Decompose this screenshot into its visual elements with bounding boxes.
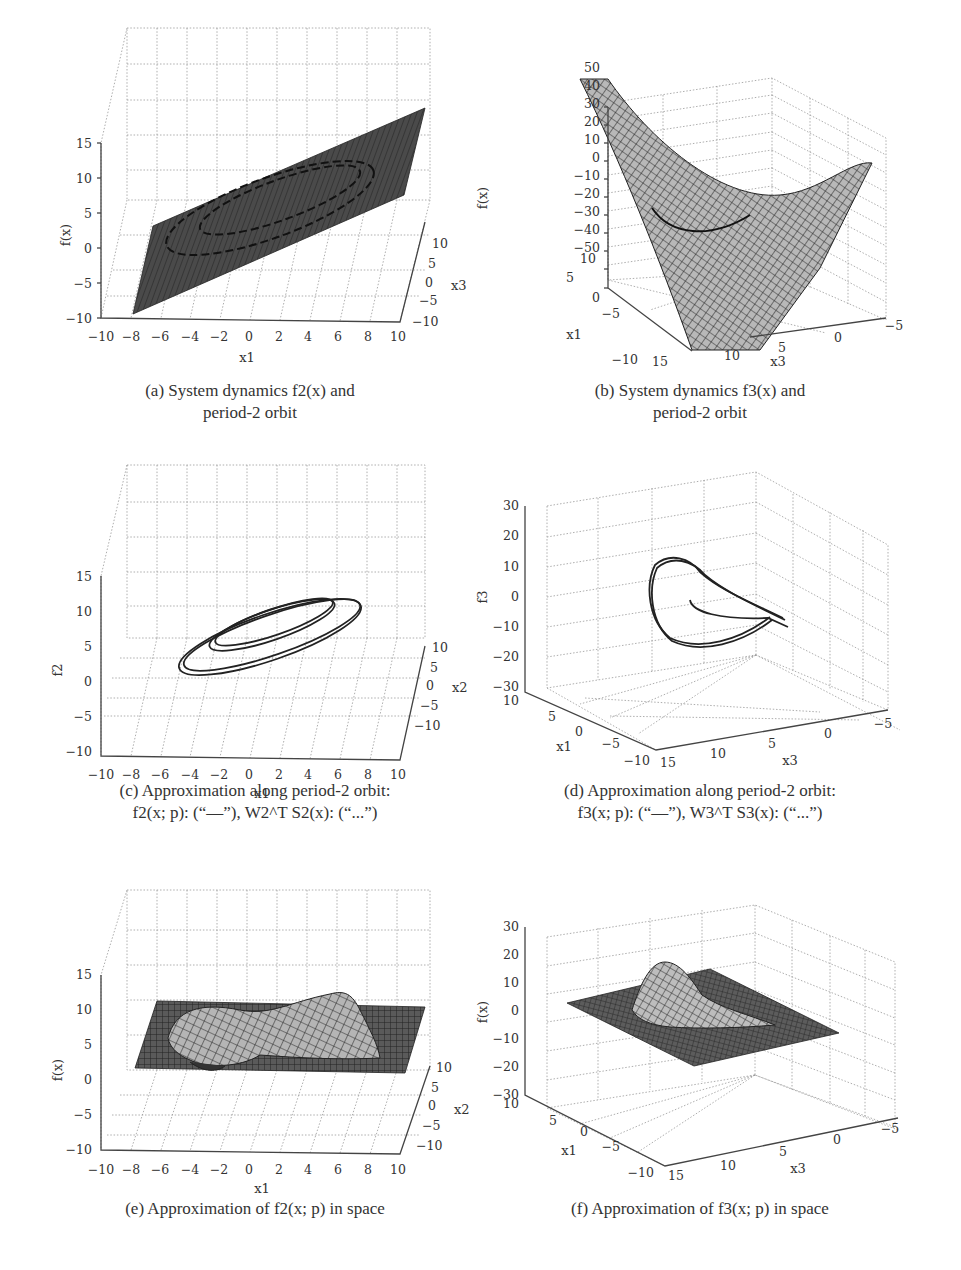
svg-text:6: 6	[334, 329, 342, 344]
svg-text:−30: −30	[493, 679, 519, 694]
svg-text:10: 10	[503, 559, 519, 574]
svg-text:0: 0	[824, 726, 832, 741]
svg-text:10: 10	[710, 746, 726, 761]
svg-text:−10: −10	[493, 1031, 519, 1046]
svg-text:8: 8	[364, 1162, 372, 1177]
orbit-curves	[172, 584, 369, 690]
svg-text:−5: −5	[602, 306, 620, 321]
svg-text:5: 5	[566, 270, 574, 285]
caption-d: (d) Approximation along period-2 orbit: …	[500, 780, 900, 824]
svg-text:5: 5	[428, 256, 436, 271]
svg-text:−5: −5	[602, 736, 620, 751]
svg-text:x1: x1	[561, 1143, 577, 1158]
svg-text:10: 10	[390, 329, 406, 344]
svg-text:0: 0	[426, 678, 434, 693]
svg-text:5: 5	[84, 1037, 92, 1052]
svg-text:10: 10	[390, 1162, 406, 1177]
svg-text:20: 20	[584, 114, 600, 129]
svg-text:0: 0	[245, 1162, 253, 1177]
svg-text:0: 0	[833, 1132, 841, 1147]
svg-text:50: 50	[584, 60, 600, 75]
svg-text:−8: −8	[122, 1162, 140, 1177]
caption-e: (e) Approximation of f2(x; p) in space	[55, 1198, 455, 1220]
svg-text:−10: −10	[628, 1165, 654, 1180]
svg-text:f(x): f(x)	[475, 1001, 490, 1023]
svg-text:2: 2	[275, 1162, 283, 1177]
svg-text:4: 4	[304, 1162, 312, 1177]
panel-f: 3020 100 −10−20 −3010 50 −5−10 1510 50 −…	[480, 890, 961, 1270]
svg-text:4: 4	[304, 329, 312, 344]
svg-text:f(x): f(x)	[58, 224, 73, 246]
svg-text:−2: −2	[210, 329, 228, 344]
svg-text:5: 5	[778, 340, 786, 355]
svg-text:10: 10	[76, 604, 92, 619]
svg-text:0: 0	[592, 150, 600, 165]
svg-text:−10: −10	[624, 753, 650, 768]
svg-text:f(x): f(x)	[50, 1059, 65, 1081]
svg-text:x3: x3	[790, 1161, 806, 1176]
svg-text:f(x): f(x)	[475, 187, 490, 209]
svg-text:10: 10	[580, 251, 596, 266]
caption-a: (a) System dynamics f2(x) and period-2 o…	[60, 380, 440, 424]
svg-text:−5: −5	[422, 1118, 440, 1133]
svg-text:−8: −8	[122, 329, 140, 344]
svg-text:10: 10	[432, 236, 448, 251]
svg-text:x2: x2	[454, 1102, 470, 1117]
svg-text:x3: x3	[451, 278, 467, 293]
svg-text:0: 0	[592, 290, 600, 305]
svg-text:10: 10	[724, 348, 740, 363]
svg-text:5: 5	[548, 709, 556, 724]
svg-text:2: 2	[275, 329, 283, 344]
svg-text:0: 0	[580, 1124, 588, 1139]
svg-text:−6: −6	[151, 1162, 169, 1177]
svg-text:−5: −5	[74, 1107, 92, 1122]
svg-text:6: 6	[334, 1162, 342, 1177]
svg-text:−5: −5	[885, 318, 903, 333]
svg-text:−5: −5	[874, 716, 892, 731]
svg-text:10: 10	[503, 975, 519, 990]
svg-text:30: 30	[503, 919, 519, 934]
svg-text:−10: −10	[66, 1142, 92, 1157]
svg-text:15: 15	[76, 569, 92, 584]
svg-text:x1: x1	[556, 739, 572, 754]
svg-text:x2: x2	[452, 680, 468, 695]
svg-text:−10: −10	[612, 352, 638, 367]
svg-text:5: 5	[431, 1080, 439, 1095]
svg-text:−6: −6	[151, 329, 169, 344]
svg-text:−10: −10	[66, 311, 92, 326]
chart-e-plot: 1510 50 −5−10 −10−8 −6−4 −20 24 68 10 10…	[0, 890, 480, 1210]
svg-text:10: 10	[76, 171, 92, 186]
caption-c: (c) Approximation along period-2 orbit: …	[55, 780, 455, 824]
svg-text:0: 0	[575, 724, 583, 739]
svg-text:30: 30	[584, 96, 600, 111]
svg-text:10: 10	[584, 132, 600, 147]
svg-text:−4: −4	[181, 329, 199, 344]
svg-text:x3: x3	[770, 354, 786, 369]
svg-text:15: 15	[660, 755, 676, 770]
svg-text:−5: −5	[420, 698, 438, 713]
svg-text:−40: −40	[574, 222, 600, 237]
svg-text:8: 8	[364, 329, 372, 344]
svg-text:0: 0	[84, 1072, 92, 1087]
chart-b-plot: 5040 3020 100 −10−20 −30−40 −5010 50 −5−…	[480, 0, 961, 370]
svg-text:x3: x3	[782, 753, 798, 768]
svg-text:30: 30	[503, 498, 519, 513]
svg-text:−20: −20	[493, 649, 519, 664]
svg-text:−10: −10	[493, 619, 519, 634]
svg-text:5: 5	[549, 1113, 557, 1128]
svg-text:0: 0	[245, 329, 253, 344]
svg-text:−10: −10	[88, 329, 114, 344]
svg-text:0: 0	[428, 1098, 436, 1113]
svg-text:15: 15	[652, 354, 668, 369]
svg-text:−2: −2	[210, 1162, 228, 1177]
svg-text:−5: −5	[419, 293, 437, 308]
svg-text:5: 5	[430, 660, 438, 675]
surface-plane	[133, 108, 425, 314]
svg-text:−10: −10	[66, 744, 92, 759]
svg-text:10: 10	[76, 1002, 92, 1017]
chart-d-plot: 3020 100 −10−20 −3010 50 −5−10 1510 50 −…	[480, 460, 961, 780]
svg-text:10: 10	[432, 640, 448, 655]
caption-f: (f) Approximation of f3(x; p) in space	[500, 1198, 900, 1220]
svg-text:−5: −5	[74, 276, 92, 291]
caption-b: (b) System dynamics f3(x) and period-2 o…	[510, 380, 890, 424]
